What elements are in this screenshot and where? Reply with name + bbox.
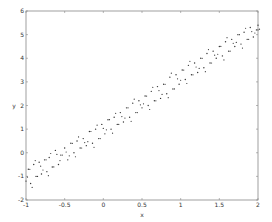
data-point bbox=[163, 84, 164, 85]
data-point bbox=[169, 76, 170, 77]
data-point bbox=[29, 169, 30, 170]
data-point bbox=[87, 141, 88, 142]
data-point bbox=[86, 145, 87, 146]
y-tick-label: 2 bbox=[20, 102, 24, 109]
data-point bbox=[84, 142, 85, 143]
data-point bbox=[220, 46, 221, 47]
data-point bbox=[208, 49, 209, 50]
data-point bbox=[233, 43, 234, 44]
data-point bbox=[62, 155, 63, 156]
data-point bbox=[58, 164, 59, 165]
data-point bbox=[146, 95, 147, 96]
data-point bbox=[104, 133, 105, 134]
data-point bbox=[155, 100, 156, 101]
data-point bbox=[212, 50, 213, 51]
data-point bbox=[202, 58, 203, 59]
data-point bbox=[175, 74, 176, 75]
data-point bbox=[248, 39, 249, 40]
data-point bbox=[205, 71, 206, 72]
data-point bbox=[30, 183, 31, 184]
x-tick-label: 1 bbox=[179, 201, 183, 208]
data-point bbox=[138, 100, 139, 101]
y-axis-label: y bbox=[12, 102, 16, 110]
data-point bbox=[137, 112, 138, 113]
data-point bbox=[226, 37, 227, 38]
data-point bbox=[113, 117, 114, 118]
data-point bbox=[246, 39, 247, 40]
y-tick-label: 3 bbox=[20, 78, 24, 85]
data-point bbox=[160, 98, 161, 99]
x-tick-label: 0 bbox=[101, 201, 105, 208]
data-point bbox=[166, 93, 167, 94]
data-point bbox=[129, 117, 130, 118]
data-point bbox=[245, 28, 246, 29]
data-point bbox=[41, 173, 42, 174]
data-point bbox=[157, 86, 158, 87]
data-point bbox=[203, 67, 204, 68]
data-point bbox=[197, 72, 198, 73]
data-point bbox=[135, 112, 136, 113]
data-point bbox=[219, 46, 220, 47]
data-point bbox=[217, 54, 218, 55]
data-point bbox=[50, 153, 51, 154]
x-tick-label: 2 bbox=[256, 201, 260, 208]
data-point bbox=[177, 78, 178, 79]
data-point bbox=[106, 129, 107, 130]
data-point bbox=[236, 42, 237, 43]
data-point bbox=[149, 109, 150, 110]
data-point bbox=[253, 36, 254, 37]
data-point bbox=[46, 171, 47, 172]
data-point bbox=[115, 113, 116, 114]
data-point bbox=[81, 147, 82, 148]
data-point bbox=[174, 88, 175, 89]
data-point bbox=[55, 150, 56, 151]
data-point bbox=[191, 74, 192, 75]
data-point bbox=[72, 143, 73, 144]
data-point bbox=[251, 31, 252, 32]
data-point bbox=[27, 177, 28, 178]
data-point bbox=[200, 58, 201, 59]
data-point bbox=[180, 80, 181, 81]
y-tick-label: -1 bbox=[18, 172, 24, 179]
data-point bbox=[188, 65, 189, 66]
data-point bbox=[59, 160, 60, 161]
data-point bbox=[79, 147, 80, 148]
data-point bbox=[32, 187, 33, 188]
data-point bbox=[237, 34, 238, 35]
data-point bbox=[222, 55, 223, 56]
data-point bbox=[168, 97, 169, 98]
data-point bbox=[112, 133, 113, 134]
data-point bbox=[90, 131, 91, 132]
data-point bbox=[107, 119, 108, 120]
data-point bbox=[118, 124, 119, 125]
data-point bbox=[147, 105, 148, 106]
data-point bbox=[194, 62, 195, 63]
data-point bbox=[45, 159, 46, 160]
data-point bbox=[78, 136, 79, 137]
data-point bbox=[154, 100, 155, 101]
data-point bbox=[42, 169, 43, 170]
data-point bbox=[240, 43, 241, 44]
data-point bbox=[76, 140, 77, 141]
data-point bbox=[126, 107, 127, 108]
data-point bbox=[103, 128, 104, 129]
data-point bbox=[38, 162, 39, 163]
data-point bbox=[98, 138, 99, 139]
scatter-chart: -1-0.500.511.52 -2-10123456 x y bbox=[0, 0, 272, 222]
data-point bbox=[134, 99, 135, 100]
data-point bbox=[70, 143, 71, 144]
data-point bbox=[44, 159, 45, 160]
data-point bbox=[92, 143, 93, 144]
data-point bbox=[83, 138, 84, 139]
y-tick-label: -2 bbox=[18, 196, 24, 203]
data-point bbox=[117, 124, 118, 125]
data-point bbox=[230, 51, 231, 52]
data-point bbox=[161, 94, 162, 95]
data-point bbox=[231, 39, 232, 40]
data-point bbox=[109, 119, 110, 120]
data-point bbox=[257, 24, 258, 25]
data-point bbox=[25, 180, 26, 181]
data-point bbox=[95, 128, 96, 129]
data-point bbox=[195, 66, 196, 67]
data-point bbox=[73, 152, 74, 153]
